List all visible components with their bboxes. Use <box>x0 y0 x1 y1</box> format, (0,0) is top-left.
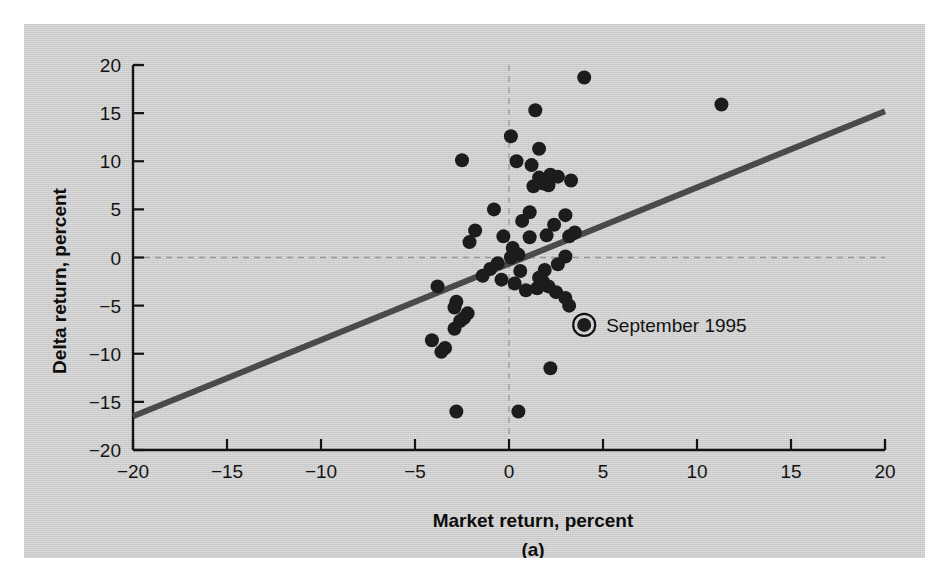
data-point <box>447 322 461 336</box>
data-point <box>525 158 539 172</box>
y-tick-label: −20 <box>89 440 121 461</box>
data-point <box>714 97 728 111</box>
data-point <box>494 273 508 287</box>
data-point <box>447 301 461 315</box>
y-tick-label: −5 <box>99 296 121 317</box>
x-tick-label: 0 <box>504 461 515 482</box>
data-point <box>551 257 565 271</box>
annotation-label: September 1995 <box>606 315 747 336</box>
data-point <box>510 154 524 168</box>
x-tick-label: −15 <box>211 461 243 482</box>
x-tick-label: 15 <box>780 461 801 482</box>
y-tick-label: 5 <box>110 199 121 220</box>
y-tick-label: −10 <box>89 344 121 365</box>
annotation-marker-dot <box>579 319 590 330</box>
data-point <box>463 235 477 249</box>
panel-caption: (a) <box>521 539 544 558</box>
x-axis-title: Market return, percent <box>433 510 634 531</box>
y-axis-title: Delta return, percent <box>49 187 70 373</box>
data-point <box>526 179 540 193</box>
data-point <box>511 405 525 419</box>
data-point <box>543 361 557 375</box>
data-point <box>455 153 469 167</box>
x-tick-label: 20 <box>874 461 895 482</box>
y-tick-label: 0 <box>110 248 121 269</box>
x-tick-label: −10 <box>305 461 337 482</box>
x-tick-label: 10 <box>686 461 707 482</box>
y-tick-label: 20 <box>100 55 121 76</box>
data-point <box>431 279 445 293</box>
scatter-plot: −20−15−10−505101520−20−15−10−505101520 S… <box>24 24 925 558</box>
data-point <box>523 230 537 244</box>
annotations: September 1995 <box>573 314 747 336</box>
data-point <box>577 71 591 85</box>
figure-root: −20−15−10−505101520−20−15−10−505101520 S… <box>0 0 951 585</box>
data-point <box>504 129 518 143</box>
data-point <box>540 228 554 242</box>
x-tick-label: 5 <box>598 461 609 482</box>
data-point <box>528 103 542 117</box>
x-tick-label: −20 <box>117 461 149 482</box>
y-tick-label: −15 <box>89 392 121 413</box>
data-point <box>564 174 578 188</box>
y-tick-label: 10 <box>100 151 121 172</box>
data-point <box>515 214 529 228</box>
data-point <box>504 251 518 265</box>
y-tick-label: 15 <box>100 103 121 124</box>
data-point <box>513 264 527 278</box>
data-point <box>541 178 555 192</box>
data-point <box>425 333 439 347</box>
data-point <box>449 405 463 419</box>
data-point <box>558 208 572 222</box>
data-points <box>425 71 729 419</box>
data-point <box>487 202 501 216</box>
data-point <box>562 299 576 313</box>
data-point <box>476 269 490 283</box>
data-point <box>568 225 582 239</box>
data-point <box>532 142 546 156</box>
x-tick-label: −5 <box>404 461 426 482</box>
figure-panel: −20−15−10−505101520−20−15−10−505101520 S… <box>24 24 925 558</box>
data-point <box>496 229 510 243</box>
data-point <box>519 283 533 297</box>
data-point <box>434 345 448 359</box>
